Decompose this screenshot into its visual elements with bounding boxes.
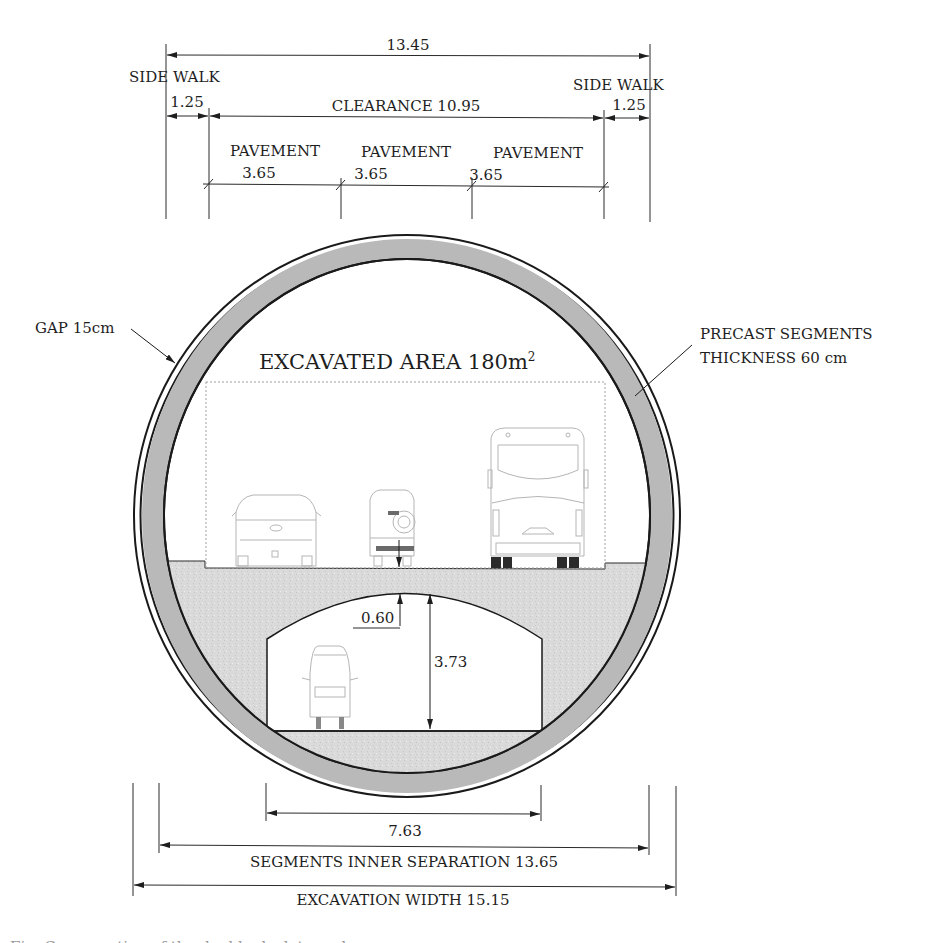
superscript-2: 2 — [528, 350, 536, 364]
overall-width-value: 13.45 — [387, 36, 430, 54]
inner-separation-value: SEGMENTS INNER SEPARATION 13.65 — [250, 853, 558, 871]
internal-structure — [150, 561, 670, 800]
clearance-dimension-line — [210, 116, 603, 118]
gap-leader-arrow — [131, 329, 175, 363]
pavement-1-label: PAVEMENT — [230, 142, 320, 160]
pavement-1-value: 3.65 — [242, 164, 275, 182]
lower-height-value: 3.73 — [434, 653, 467, 671]
figure-caption-clipped: Fig. Cross section of the double-deck tu… — [10, 933, 910, 943]
sidewalk-left-value: 1.25 — [170, 93, 203, 111]
pavement-2-label: PAVEMENT — [361, 143, 451, 161]
gap-label: GAP 15cm — [35, 319, 114, 337]
excavated-area-text: EXCAVATED AREA 180m — [259, 350, 528, 374]
inner-separation-dimension-line — [160, 845, 648, 848]
lower-width-dimension-line — [267, 813, 540, 814]
sidewalk-right-value: 1.25 — [612, 96, 645, 114]
overall-width-dimension-line — [167, 55, 649, 56]
pavement-3-value: 3.65 — [469, 166, 502, 184]
lower-width-value: 7.63 — [388, 822, 421, 840]
tunnel-cross-section-diagram: 13.45 SIDE WALK SIDE WALK 1.25 CLEARANCE… — [0, 0, 947, 943]
top-dimensions: 13.45 SIDE WALK SIDE WALK 1.25 CLEARANCE… — [129, 36, 664, 222]
precast-label-line1: PRECAST SEGMENTS — [700, 325, 873, 343]
precast-leader-line — [635, 345, 692, 396]
slab-thickness-value: 0.60 — [361, 609, 394, 627]
pavement-dimension-line — [203, 184, 609, 187]
sidewalk-right-label: SIDE WALK — [573, 76, 664, 94]
excavation-width-dimension-line — [134, 885, 675, 887]
sidewalk-left-label: SIDE WALK — [129, 68, 220, 86]
bottom-dimensions: 7.63 SEGMENTS INNER SEPARATION 13.65 EXC… — [133, 783, 676, 909]
pavement-3-label: PAVEMENT — [493, 144, 583, 162]
excavation-width-value: EXCAVATION WIDTH 15.15 — [296, 891, 509, 909]
clearance-value: CLEARANCE 10.95 — [332, 97, 481, 115]
excavated-area-title: EXCAVATED AREA 180m2 — [259, 350, 536, 374]
pavement-2-value: 3.65 — [354, 165, 387, 183]
precast-label-line2: THICKNESS 60 cm — [700, 349, 847, 367]
